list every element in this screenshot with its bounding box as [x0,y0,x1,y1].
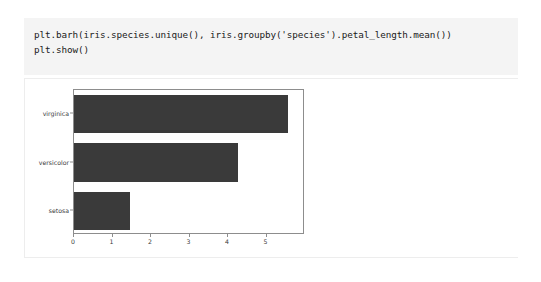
x-tick-mark-2 [150,234,151,237]
x-tick-label-2: 2 [148,238,152,245]
x-tick-label-5: 5 [264,238,268,245]
y-tick-label-versicolor: versicolor [39,158,69,165]
x-tick-mark-4 [227,234,228,237]
x-tick-mark-1 [112,234,113,237]
code-cell[interactable]: plt.barh(iris.species.unique(), iris.gro… [24,18,518,75]
y-tick-label-setosa: setosa [49,206,69,213]
y-axis-tick-labels: setosaversicolorvirginica [25,89,69,234]
y-tick-label-virginica: virginica [43,110,69,117]
bars-container [74,90,303,233]
x-tick-label-3: 3 [187,238,191,245]
x-tick-mark-3 [189,234,190,237]
output-cell: setosaversicolorvirginica 012345 [24,78,518,258]
plot-axes [73,89,304,234]
x-tick-mark-0 [73,234,74,237]
notebook-page: plt.barh(iris.species.unique(), iris.gro… [0,0,541,282]
bar-versicolor [74,143,238,182]
matplotlib-figure: setosaversicolorvirginica 012345 [25,79,519,257]
code-line-1: plt.barh(iris.species.unique(), iris.gro… [34,27,518,42]
x-tick-label-0: 0 [71,238,75,245]
bar-setosa [74,192,130,231]
x-tick-label-4: 4 [225,238,229,245]
bar-virginica [74,95,288,134]
x-axis-tick-labels: 012345 [73,238,304,250]
x-tick-label-1: 1 [110,238,114,245]
x-tick-mark-5 [266,234,267,237]
code-line-2: plt.show() [34,42,518,57]
